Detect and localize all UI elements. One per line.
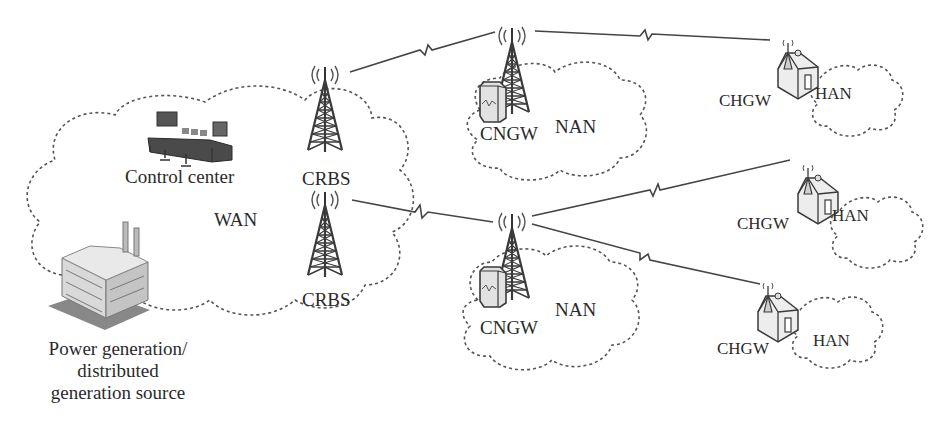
link-crbs-top-to-cngw-top [350, 32, 495, 72]
crbs-top-tower [308, 66, 342, 152]
chgw-3-house-icon [758, 283, 798, 342]
link-cngw-bottom-to-chgw-3 [532, 224, 760, 284]
power-source-label-line-3: generation source [38, 382, 198, 404]
power-source-label-line-2: distributed [38, 360, 198, 382]
crbs-top-label: CRBS [302, 169, 351, 188]
chgw-3-label: CHGW [717, 340, 769, 357]
link-cngw-bottom-to-chgw-2 [532, 160, 790, 216]
wan-label: WAN [214, 210, 257, 229]
nan-bottom-cloud [463, 246, 639, 370]
nan-bottom-label: NAN [555, 300, 596, 319]
link-cngw-top-to-chgw-1 [535, 30, 770, 40]
chgw-1-label: CHGW [719, 92, 771, 109]
crbs-bottom-label: CRBS [302, 290, 351, 309]
factory-icon [48, 222, 150, 330]
cngw-bottom-label: CNGW [480, 318, 538, 337]
chgw-1-house-icon [778, 40, 818, 99]
control-console-icon [148, 112, 232, 166]
control-center-label: Control center [125, 167, 234, 186]
chgw-2-label: CHGW [737, 215, 789, 232]
cngw-top-label: CNGW [480, 124, 538, 143]
cngw-bottom-cabinet-icon [480, 267, 506, 307]
crbs-bottom-tower [308, 191, 342, 277]
han-2-label: HAN [832, 207, 869, 224]
power-source-label-line-1: Power generation/ [38, 338, 198, 360]
han-1-label: HAN [815, 85, 852, 102]
nan-top-label: NAN [555, 117, 596, 136]
link-crbs-bottom-to-cngw-bottom [352, 200, 493, 222]
cngw-top-cabinet-icon [480, 82, 506, 122]
han-3-label: HAN [813, 332, 850, 349]
power-source-label: Power generation/ distributed generation… [38, 338, 198, 404]
